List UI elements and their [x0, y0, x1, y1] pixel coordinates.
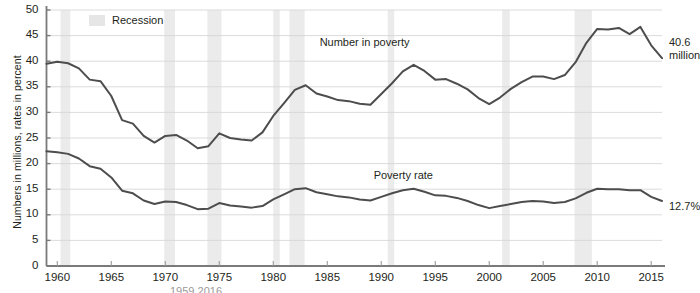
- x-tick-label: 1975: [197, 271, 241, 283]
- x-tick-label: 1960: [35, 271, 79, 283]
- x-tick-label: 1990: [359, 271, 403, 283]
- y-tick-label: 10: [13, 207, 39, 219]
- series-endpoint-label: 40.6million: [669, 36, 700, 61]
- legend-label-recession: Recession: [112, 14, 163, 26]
- y-tick-label: 35: [13, 79, 39, 91]
- x-tick-label: 1965: [89, 271, 133, 283]
- series-line: [47, 151, 663, 209]
- x-tick-label: 2010: [575, 271, 619, 283]
- series-label: Poverty rate: [374, 169, 433, 181]
- x-tick-label: 1980: [251, 271, 295, 283]
- series-endpoint-label: 12.7%: [669, 200, 700, 213]
- y-tick-label: 50: [13, 3, 39, 15]
- y-tick-label: 40: [13, 54, 39, 66]
- x-tick-label: 2005: [521, 271, 565, 283]
- x-tick-label: 2015: [629, 271, 673, 283]
- y-tick-label: 25: [13, 131, 39, 143]
- figure-caption: 1959 2016: [170, 285, 222, 293]
- legend: Recession: [89, 14, 163, 26]
- x-tick-label: 2000: [467, 271, 511, 283]
- x-tick-label: 1995: [413, 271, 457, 283]
- series-label: Number in poverty: [320, 36, 410, 48]
- y-tick-label: 45: [13, 28, 39, 40]
- x-tick-label: 1985: [305, 271, 349, 283]
- x-tick-label: 1970: [143, 271, 187, 283]
- y-tick-label: 20: [13, 156, 39, 168]
- recession-swatch: [89, 15, 105, 26]
- y-tick-label: 5: [13, 233, 39, 245]
- y-tick-label: 15: [13, 182, 39, 194]
- y-tick-label: 0: [13, 259, 39, 271]
- y-tick-label: 30: [13, 105, 39, 117]
